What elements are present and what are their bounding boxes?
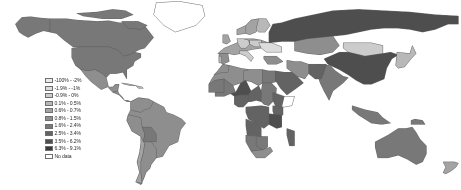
legend-swatch-7: [45, 131, 53, 136]
legend-swatch-8: [45, 139, 53, 144]
legend-swatch-1: [45, 86, 53, 91]
legend-label-9: 6.3% - 9.1%: [55, 145, 81, 153]
legend-item: -0.9% - 0%: [45, 92, 101, 99]
map-legend: -100% - -2% -1.9% - -1% -0.9% - 0% 0.1% …: [45, 77, 101, 160]
legend-item: -1.9% - -1%: [45, 85, 101, 92]
legend-item: 0.6% - 0.7%: [45, 107, 101, 114]
legend-label-1: -1.9% - -1%: [55, 84, 81, 92]
legend-label-0: -100% - -2%: [55, 77, 82, 85]
legend-item: 3.5% - 6.2%: [45, 138, 101, 145]
legend-label-7: 2.5% - 3.4%: [55, 130, 81, 138]
legend-item: 6.3% - 9.1%: [45, 145, 101, 152]
legend-label-6: 1.6% - 2.4%: [55, 122, 81, 130]
legend-swatch-10: [45, 154, 53, 159]
legend-item: 2.5% - 3.4%: [45, 130, 101, 137]
legend-swatch-3: [45, 101, 53, 106]
legend-swatch-2: [45, 93, 53, 98]
legend-label-2: -0.9% - 0%: [55, 92, 79, 100]
legend-swatch-6: [45, 124, 53, 129]
legend-label-4: 0.6% - 0.7%: [55, 107, 81, 115]
legend-item: 1.6% - 2.4%: [45, 122, 101, 129]
legend-swatch-4: [45, 108, 53, 113]
legend-swatch-9: [45, 146, 53, 151]
legend-item: -100% - -2%: [45, 77, 101, 84]
legend-label-10: No data: [55, 153, 72, 161]
legend-swatch-5: [45, 116, 53, 121]
legend-swatch-0: [45, 78, 53, 83]
world-map-figure: -100% - -2% -1.9% - -1% -0.9% - 0% 0.1% …: [0, 0, 461, 190]
legend-item-no-data: No data: [45, 153, 101, 160]
